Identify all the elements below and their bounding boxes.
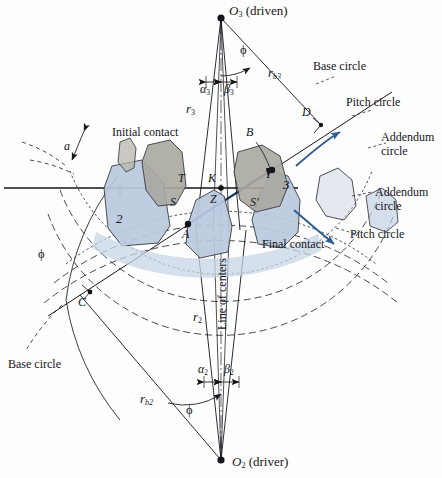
gear3-tooth-middle	[234, 145, 288, 212]
label-point-A: A	[182, 228, 189, 240]
gear3-tooth-right	[316, 168, 356, 220]
leader-pitch-circle-top	[352, 110, 372, 116]
label-pitch-circle-bottom: Pitch circle	[350, 228, 404, 240]
label-phi-top: ϕ	[240, 44, 247, 57]
point-K-pitch	[218, 185, 224, 191]
label-addendum-circle-bottom-l2: circle	[375, 200, 402, 212]
point-O3	[217, 14, 224, 21]
label-point-K: K	[208, 172, 216, 184]
label-rb3: rb3	[268, 66, 281, 81]
label-addendum-a: a	[64, 140, 70, 152]
leader-base-circle-top	[316, 76, 336, 84]
base-circle-gear2-solid-arc-lower	[66, 300, 120, 420]
label-point-T: T	[178, 172, 185, 184]
label-alpha2: α2	[198, 363, 208, 377]
label-point-S: S	[170, 196, 176, 208]
label-beta2: β2	[224, 363, 234, 377]
point-C	[88, 290, 93, 295]
pitch-stub-upper-left	[30, 160, 74, 174]
gear2-tooth-middle	[186, 190, 232, 258]
dim-addendum-a	[72, 131, 84, 160]
angle-arc-phi-left-placeholder	[55, 236, 60, 276]
label-point-B: B	[246, 126, 253, 138]
label-pitch-circle-top: Pitch circle	[346, 96, 400, 108]
label-beta3: β3	[224, 83, 234, 97]
label-final-contact: Final contact	[262, 238, 324, 250]
label-gear-3: 3	[283, 178, 290, 191]
addendum-stub-upper-left	[22, 142, 66, 166]
leader-initial-contact	[176, 136, 196, 142]
label-point-T-prime: T'	[265, 168, 274, 180]
point-O2	[217, 456, 224, 463]
figure-canvas: O3 (driven) O2 (driver) r3 r2 rb3 rb2 ϕ …	[0, 0, 442, 478]
angle-arc-phi-bottom	[168, 394, 221, 405]
label-point-Z: Z	[210, 193, 217, 205]
base-circle-gear2-tail	[26, 305, 62, 350]
rotation-arrow-upper	[296, 132, 340, 166]
label-O2: O2 (driver)	[232, 455, 288, 470]
label-initial-contact: Initial contact	[112, 126, 178, 138]
label-addendum-circle-bottom-l1: Addendum	[375, 186, 428, 198]
label-O3: O3 (driven)	[229, 4, 288, 19]
label-line-of-centers: Line of centers	[216, 258, 228, 330]
label-r2: r2	[193, 310, 202, 325]
label-gear-2: 2	[116, 212, 123, 225]
label-addendum-circle-top-l1: Addendum	[381, 131, 434, 143]
label-point-S-prime: S'	[250, 196, 259, 208]
label-phi-left: ϕ	[38, 248, 45, 261]
label-phi-bottom: ϕ	[186, 404, 193, 417]
label-alpha3: α3	[200, 83, 210, 97]
label-base-circle-top: Base circle	[313, 60, 366, 72]
label-r3: r3	[186, 102, 195, 117]
label-addendum-circle-top-l2: circle	[381, 145, 408, 157]
label-point-C: C	[78, 296, 86, 308]
label-base-circle-bottom: Base circle	[8, 358, 61, 370]
label-rb2: rb2	[140, 392, 153, 407]
point-D	[319, 123, 323, 127]
label-point-D: D	[302, 106, 311, 118]
